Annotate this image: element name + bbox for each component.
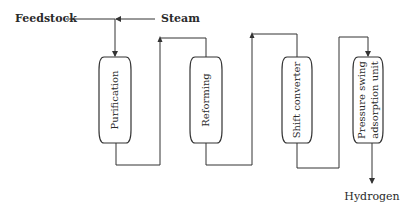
reforming-label: Reforming <box>200 73 211 127</box>
psa-label-line2: adsorption unit <box>369 61 380 139</box>
purification-label: Purification <box>109 70 120 130</box>
shift-converter-label: Shift converter <box>291 62 302 139</box>
arrow-up-icon <box>158 36 163 42</box>
arrow-up-icon <box>250 32 255 38</box>
feed-lines <box>66 19 155 56</box>
psa-label-line1: Pressure swing <box>356 61 367 139</box>
process-flow-diagram: Feedstock Steam Purification Reforming S… <box>0 0 407 210</box>
reforming-to-shift-top <box>252 34 297 57</box>
purification-to-reforming-top <box>160 38 206 57</box>
hydrogen-label: Hydrogen <box>344 190 399 203</box>
steam-label: Steam <box>161 12 200 25</box>
